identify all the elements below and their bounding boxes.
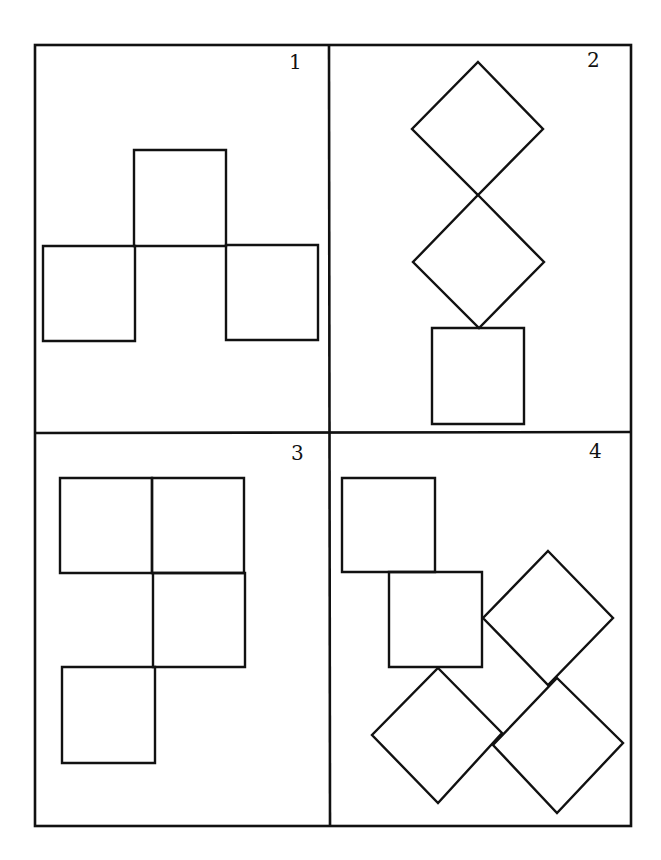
square-shape (134, 150, 226, 246)
square-shape (43, 246, 135, 341)
square-shape (342, 478, 435, 572)
square-shape (432, 328, 524, 424)
square-shape (389, 572, 482, 667)
square-shape (152, 478, 244, 573)
diamond-shape (412, 62, 543, 195)
panel-label: 2 (587, 48, 600, 72)
panel-1: 1 (43, 50, 318, 341)
panel-1-shapes (43, 150, 318, 341)
panel-3: 3 (60, 441, 304, 763)
diamond-shape (372, 668, 502, 803)
panel-2: 2 (412, 48, 600, 424)
diamond-shape (483, 551, 613, 685)
panel-2-shapes (412, 62, 544, 424)
square-shape (62, 667, 155, 763)
square-shape (60, 478, 152, 573)
square-shape (153, 573, 245, 667)
panel-label: 4 (589, 439, 602, 463)
vertical-divider (329, 44, 330, 825)
outer-frame (35, 45, 631, 826)
panel-4-shapes (342, 478, 623, 813)
panel-4: 4 (342, 439, 623, 813)
horizontal-divider (35, 432, 631, 433)
diamond-shape (493, 678, 623, 813)
panel-label: 3 (291, 441, 304, 465)
diamond-shape (413, 195, 544, 328)
figure-canvas: 1 2 3 4 (0, 0, 661, 860)
panel-label: 1 (289, 50, 302, 74)
square-shape (226, 245, 318, 340)
panel-3-shapes (60, 478, 245, 763)
